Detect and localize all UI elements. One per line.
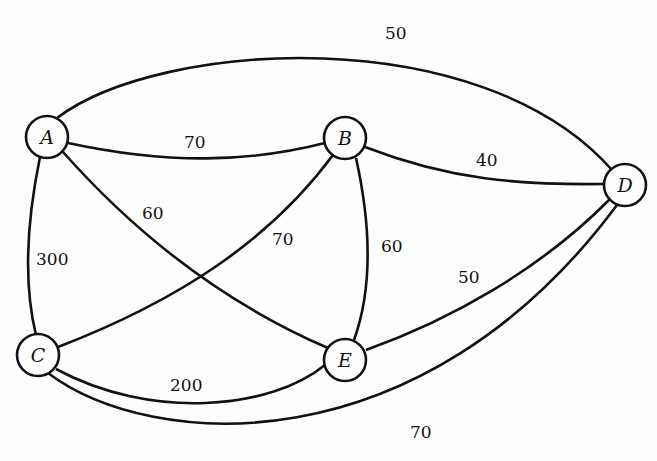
weight-B-D: 40 (476, 150, 498, 170)
node-C: C (17, 334, 59, 376)
node-label-B: B (337, 127, 352, 149)
weight-D-E: 50 (458, 267, 480, 287)
node-label-A: A (38, 126, 54, 148)
node-A: A (26, 116, 68, 158)
node-label-C: C (31, 344, 46, 366)
edge-B-C (58, 155, 333, 347)
edge-A-E (63, 152, 328, 348)
weight-B-C: 70 (272, 229, 294, 249)
weight-C-E: 200 (170, 375, 202, 395)
node-label-D: D (616, 174, 632, 196)
node-label-E: E (337, 349, 352, 371)
node-B: B (324, 117, 366, 159)
node-D: D (604, 164, 646, 206)
edge-D-E (366, 199, 610, 350)
weight-C-D: 70 (410, 422, 432, 442)
node-E: E (324, 339, 366, 381)
weighted-graph-diagram: 50 70 60 300 40 70 60 50 200 70 A B C D … (0, 0, 657, 461)
weight-B-E: 60 (381, 236, 403, 256)
edge-B-E (354, 158, 368, 340)
weight-A-C: 300 (36, 249, 68, 269)
edge-A-C (28, 157, 40, 335)
graph-svg: 50 70 60 300 40 70 60 50 200 70 A B C D … (0, 0, 657, 461)
weight-A-B: 70 (184, 132, 206, 152)
weight-A-D: 50 (385, 23, 407, 43)
weight-A-E: 60 (142, 203, 164, 223)
